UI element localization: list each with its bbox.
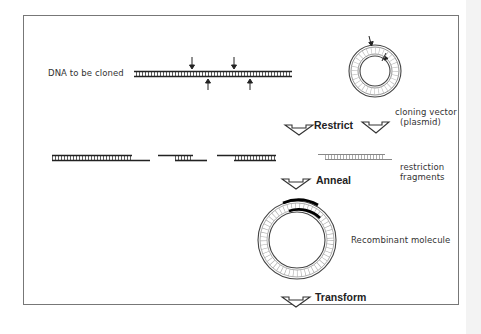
linear-vector-fragment (318, 155, 392, 160)
recombinant-molecule-label: Recombinant molecule (351, 235, 450, 245)
fragments-label: fragments (400, 172, 445, 182)
step-restrict: Restrict (314, 119, 353, 131)
dna-to-clone-label: DNA to be cloned (48, 68, 124, 78)
step-transform: Transform (315, 291, 366, 303)
step-anneal: Anneal (316, 174, 351, 186)
dna-double-strand (134, 72, 292, 77)
recombinant-molecule (258, 200, 336, 279)
transform-arrow-icon (282, 297, 310, 307)
plasmid-vector (349, 36, 401, 97)
restriction-label: restriction (400, 162, 444, 172)
cloning-vector-label: cloning vector (395, 107, 447, 117)
anneal-arrow-icon (282, 179, 310, 189)
dna-fragments (52, 156, 276, 161)
plasmid-label: (plasmid) (395, 117, 441, 127)
down-arrow-icon (285, 125, 313, 135)
down-arrow-icon (362, 122, 389, 133)
